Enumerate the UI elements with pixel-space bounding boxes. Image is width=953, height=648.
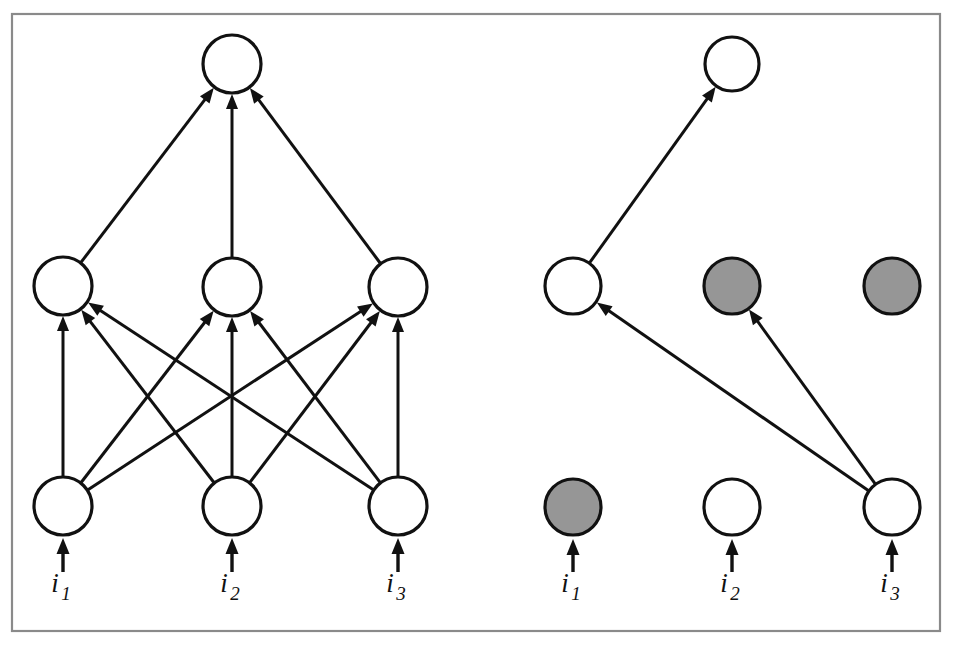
edge-line: [257, 320, 380, 482]
input-label-base: i: [386, 568, 394, 598]
edge-R-input-3-to-R-hidden-1: [597, 303, 869, 492]
input-label-subscript: 1: [61, 583, 71, 604]
input-labels-layer: i1i2i3i1i2i3: [51, 568, 900, 604]
input-label-subscript: 1: [571, 583, 581, 604]
input-label-base: i: [220, 568, 228, 598]
node-input-1-dropped: [545, 479, 601, 535]
node-hidden-2-dropped: [704, 258, 760, 314]
edge-arrowhead: [392, 317, 404, 332]
input-label-2: i2: [720, 568, 740, 604]
input-arrowhead: [726, 539, 739, 555]
input-arrowhead: [226, 538, 239, 554]
edge-arrowhead: [88, 302, 104, 315]
edge-R-hidden-1-to-R-out-1: [589, 87, 715, 263]
input-arrowhead: [886, 539, 899, 555]
input-label-2: i2: [220, 568, 240, 604]
node-output-1-active: [203, 35, 261, 93]
nodes-layer: [34, 35, 920, 535]
edge-arrowhead: [749, 309, 763, 325]
input-label-subscript: 3: [889, 583, 900, 604]
input-label-subscript: 2: [730, 583, 740, 604]
figure-container: i1i2i3i1i2i3: [0, 0, 953, 648]
input-label-3: i3: [386, 568, 406, 604]
edge-line: [756, 319, 876, 484]
edge-line: [87, 310, 363, 490]
input-label-subscript: 3: [395, 583, 406, 604]
input-label-base: i: [561, 568, 569, 598]
edge-arrowhead: [597, 303, 613, 316]
node-input-3-active: [369, 477, 427, 535]
node-hidden-1-active: [34, 257, 92, 315]
input-label-3: i3: [880, 568, 900, 604]
edge-L-hidden-3-to-L-out-1: [250, 88, 381, 264]
input-label-subscript: 2: [230, 583, 240, 604]
node-input-1-active: [34, 477, 92, 535]
edge-L-hidden-1-to-L-out-1: [81, 88, 214, 263]
node-hidden-2-active: [203, 258, 261, 316]
edge-arrowhead: [226, 317, 238, 332]
node-input-3-active: [864, 479, 920, 535]
node-hidden-3-dropped: [864, 258, 920, 314]
edge-line: [589, 97, 708, 264]
edge-line: [257, 98, 381, 264]
edge-line: [81, 320, 207, 483]
edge-arrowhead: [357, 303, 373, 316]
edge-arrowhead: [702, 87, 716, 103]
edge-line: [607, 309, 869, 491]
input-arrow-2: [226, 538, 239, 572]
edge-L-input-1-to-L-hidden-1: [57, 316, 69, 477]
input-label-base: i: [720, 568, 728, 598]
input-arrowhead: [392, 538, 405, 554]
node-hidden-1-active: [545, 258, 601, 314]
edge-arrowhead: [57, 316, 69, 331]
edge-line: [81, 97, 207, 263]
input-arrows-layer: [57, 538, 899, 572]
edge-arrowhead: [226, 94, 238, 109]
input-label-base: i: [880, 568, 888, 598]
input-arrowhead: [57, 538, 70, 554]
input-label-1: i1: [51, 568, 71, 604]
network-diagram-svg: i1i2i3i1i2i3: [0, 0, 953, 648]
node-hidden-3-active: [369, 258, 427, 316]
node-output-1-active: [705, 37, 759, 91]
node-input-2-active: [203, 477, 261, 535]
figure-frame: [12, 14, 940, 631]
node-input-2-active: [704, 479, 760, 535]
input-arrow-1: [57, 538, 70, 572]
input-arrowhead: [567, 539, 580, 555]
input-label-1: i1: [561, 568, 581, 604]
edge-L-hidden-2-to-L-out-1: [226, 94, 238, 258]
input-label-base: i: [51, 568, 59, 598]
edge-R-input-3-to-R-hidden-2: [749, 309, 876, 484]
input-arrow-3: [392, 538, 405, 572]
edge-L-input-3-to-L-hidden-3: [392, 317, 404, 477]
edge-line: [98, 309, 374, 490]
